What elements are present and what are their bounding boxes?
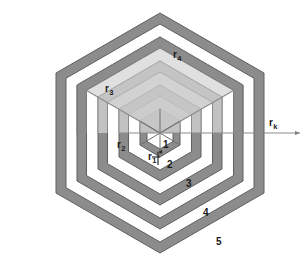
radius-label-rk: rk <box>269 118 277 130</box>
radius-r3-sub: 3 <box>109 88 113 97</box>
radius-rk-sub: k <box>273 122 277 131</box>
radius-label-r4: r4 <box>173 50 181 62</box>
hexagon-diagram-svg <box>0 0 307 271</box>
radius-label-r3: r3 <box>105 84 113 96</box>
shell-label-5: 5 <box>216 237 222 247</box>
radius-r2-sub: 2 <box>121 144 125 153</box>
shell-label-4: 4 <box>203 208 209 218</box>
radius-label-r1: r1 <box>148 152 156 164</box>
radius-label-r2: r2 <box>117 140 125 152</box>
shell-label-1: 1 <box>163 140 169 150</box>
shell-label-3: 3 <box>186 179 192 189</box>
shell-label-2: 2 <box>167 160 173 170</box>
radius-r1-sub: 1 <box>152 156 156 165</box>
hexagon-shell-figure: 1 2 3 4 5 r1 r2 r3 r4 rk <box>0 0 307 271</box>
radius-r4-sub: 4 <box>177 54 181 63</box>
